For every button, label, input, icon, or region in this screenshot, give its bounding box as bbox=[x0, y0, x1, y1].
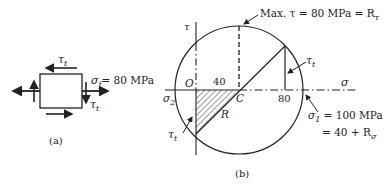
sigma-f-label: σf= 80 MPa bbox=[91, 74, 154, 89]
sigma1-line2: = 40 + Rσ bbox=[322, 126, 377, 141]
caption-a: (a) bbox=[49, 135, 63, 146]
tau-t-right-label: τt bbox=[306, 54, 316, 69]
tau-t-left-pointer bbox=[183, 117, 192, 133]
max-tau-note: Max. τ = 80 MPa = Rτ bbox=[260, 7, 380, 22]
mohr-circle-figure: τt σf= 80 MPa τt (a) τ σ O C R σ2 40 80 … bbox=[0, 0, 386, 184]
sigma1-line1: σ1 = 100 MPa bbox=[308, 109, 383, 124]
tau-t-right-label: τt bbox=[90, 98, 100, 113]
center-label: C bbox=[236, 92, 244, 104]
tau-t-left-label: τt bbox=[168, 128, 178, 143]
origin-label: O bbox=[185, 77, 194, 89]
sigma2-label: σ2 bbox=[163, 92, 175, 107]
caption-b: (b) bbox=[235, 168, 249, 179]
tick-80: 80 bbox=[278, 93, 291, 104]
element-square bbox=[40, 74, 82, 108]
max-tau-pointer bbox=[244, 15, 258, 24]
tick-40: 40 bbox=[213, 76, 226, 87]
tau-t-top-label: τt bbox=[58, 53, 68, 68]
radius-label: R bbox=[220, 108, 229, 120]
sigma-axis-label: σ bbox=[341, 76, 349, 89]
tau-axis-label: τ bbox=[184, 21, 190, 32]
